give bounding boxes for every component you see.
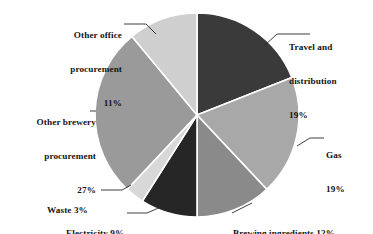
- slice-label-travel-and-distribution: Travel and distribution 19%: [289, 20, 337, 143]
- slice-value-other-office: 11%: [38, 98, 122, 109]
- slice-value-travel: 19%: [289, 110, 337, 121]
- slice-label-other-brewery-line2: procurement: [4, 151, 96, 162]
- pie-chart-figure: Travel and distribution 19% Gas 19% Brew…: [0, 0, 373, 234]
- slice-label-gas-line1: Gas: [326, 150, 345, 161]
- slice-label-travel-line2: distribution: [289, 76, 337, 87]
- slice-label-other-office-line1: Other office: [38, 30, 122, 41]
- slice-label-travel-line1: Travel and: [289, 42, 337, 53]
- slice-label-brewing-text: Brewing ingredients 12%: [233, 228, 335, 234]
- slice-label-brewing-ingredients: Brewing ingredients 12%: [233, 206, 335, 234]
- slice-value-other-brewery: 27%: [4, 185, 96, 196]
- slice-value-gas: 19%: [326, 184, 345, 195]
- slice-label-gas: Gas 19%: [326, 128, 345, 218]
- pie-slice-group: [95, 13, 299, 217]
- slice-label-other-office-procurement: Other office procurement 11%: [38, 8, 122, 131]
- slice-label-other-office-line2: procurement: [38, 64, 122, 75]
